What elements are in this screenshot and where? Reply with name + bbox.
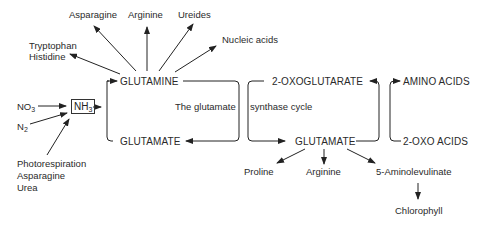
label-histidine: Histidine: [29, 51, 65, 62]
node-glutamate-left: GLUTAMATE: [120, 136, 181, 147]
node-glutamine: GLUTAMINE: [120, 76, 179, 87]
arrow-to-aminolevulinate: [347, 149, 375, 163]
label-photorespiration: Photorespiration: [17, 158, 86, 169]
label-proline: Proline: [244, 166, 274, 177]
label-chlorophyll: Chlorophyll: [395, 205, 443, 216]
arrow-to-asparagine: [94, 26, 136, 71]
node-glutamate-right: GLUTAMATE: [295, 136, 356, 147]
arrow-sources-nh3: [47, 119, 69, 155]
label-urea: Urea: [17, 182, 38, 193]
label-asparagine: Asparagine: [69, 9, 117, 20]
left-bracket: [107, 81, 113, 141]
arrow-n2-nh3: [30, 113, 67, 124]
glutamate-to-oxoglutarate: [356, 81, 379, 141]
label-arginine-2: Arginine: [306, 166, 341, 177]
arrow-to-nucleic-acids: [175, 46, 216, 72]
oxo-to-amino-bracket: [390, 81, 401, 141]
node-2-oxoglutarate: 2-OXOGLUTARATE: [272, 76, 363, 87]
cycle-label-right: synthase cycle: [250, 101, 312, 112]
label-asparagine-source: Asparagine: [17, 170, 65, 181]
cycle-label-left: The glutamate: [175, 101, 236, 112]
label-ureides: Ureides: [178, 9, 211, 20]
label-arginine: Arginine: [128, 9, 163, 20]
label-5-aminolevulinate: 5-Aminolevulinate: [376, 166, 452, 177]
label-n2: N2: [17, 121, 28, 132]
nh3-box: NH3: [71, 99, 95, 114]
arrow-to-tryptophan: [70, 54, 120, 74]
label-tryptophan: Tryptophan: [29, 40, 77, 51]
arrow-to-proline: [277, 149, 305, 163]
node-2-oxo-acids: 2-OXO ACIDS: [403, 136, 468, 147]
node-amino-acids: AMINO ACIDS: [403, 76, 470, 87]
label-no3: NO3: [17, 101, 35, 112]
label-nucleic-acids: Nucleic acids: [222, 34, 278, 45]
